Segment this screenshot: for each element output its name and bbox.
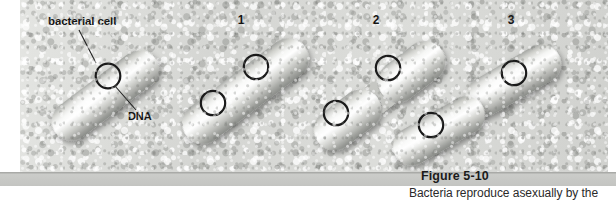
cell-parent (44, 43, 167, 149)
cell-stage-3-daughter-lower (386, 89, 492, 172)
figure-caption-text: Bacteria reproduce asexually by the (409, 186, 598, 200)
label-bacterial-cell: bacterial cell (48, 15, 116, 27)
cell-stage-1 (174, 30, 317, 152)
stage-number-1: 1 (231, 13, 251, 27)
micrograph-texture-panel: bacterial cell DNA 1 2 3 (20, 0, 608, 172)
leader-line-bacterial-cell (79, 30, 96, 63)
cell-stage-1-gloss (174, 30, 317, 152)
figure-binary-fission: bacterial cell DNA 1 2 3 Figure 5-10 Bac… (0, 0, 616, 201)
stage-number-2: 2 (366, 13, 386, 27)
cell-stage-3-lower-gloss (386, 89, 492, 172)
stage-number-3: 3 (501, 13, 521, 27)
figure-number: Figure 5-10 (421, 169, 489, 183)
figure-caption-bar (0, 172, 616, 186)
label-dna: DNA (128, 110, 152, 122)
cell-parent-gloss (44, 43, 167, 149)
